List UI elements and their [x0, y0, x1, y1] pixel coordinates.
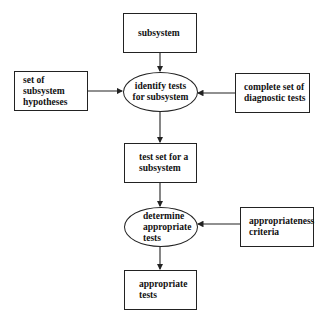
- node-appropriate-label: appropriate tests: [139, 279, 187, 301]
- node-subsystem-hypotheses: set of subsystem hypotheses: [14, 71, 88, 111]
- node-diagnostic-tests: complete set of diagnostic tests: [235, 73, 310, 113]
- process-identify-label: identify tests for subsystem: [132, 81, 188, 103]
- node-subsystem-label: subsystem: [138, 28, 180, 39]
- process-determine-tests: determine appropriate tests: [124, 207, 198, 247]
- node-test-set: test set for a subsystem: [124, 143, 197, 183]
- node-criteria-label: appropriateness criteria: [249, 216, 314, 238]
- node-diagnostic-label: complete set of diagnostic tests: [244, 82, 306, 104]
- process-determine-label: determine appropriate tests: [143, 211, 191, 244]
- node-hypotheses-label: set of subsystem hypotheses: [23, 75, 87, 108]
- node-testset-label: test set for a subsystem: [139, 152, 188, 174]
- node-subsystem: subsystem: [123, 13, 197, 53]
- node-appropriate-tests: appropriate tests: [124, 270, 197, 310]
- process-identify-tests: identify tests for subsystem: [123, 72, 198, 112]
- node-appropriateness-criteria: appropriateness criteria: [240, 207, 314, 247]
